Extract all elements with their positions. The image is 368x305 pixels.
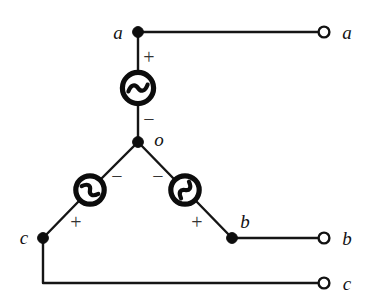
wire-c-line bbox=[43, 238, 324, 283]
terminal-label-b: b bbox=[342, 229, 352, 248]
polarity-plus-phase-a: + bbox=[143, 47, 154, 67]
node-dot-c bbox=[38, 233, 49, 244]
node-label-o: o bbox=[154, 130, 164, 149]
terminal-group bbox=[319, 27, 330, 289]
polarity-minus-phase-b: − bbox=[152, 166, 163, 186]
polarity-plus-phase-b: + bbox=[191, 212, 202, 232]
terminal-label-c: c bbox=[343, 274, 351, 293]
terminal-label-a: a bbox=[342, 23, 352, 42]
polarity-plus-phase-c: + bbox=[70, 212, 81, 232]
wire-group bbox=[43, 32, 324, 283]
node-label-a: a bbox=[113, 23, 123, 42]
source-phase-a[interactable] bbox=[122, 72, 153, 103]
polarity-minus-phase-c: − bbox=[111, 166, 122, 186]
circuit-canvas bbox=[0, 0, 368, 305]
node-dot-a bbox=[133, 27, 144, 38]
node-dot-b bbox=[227, 233, 238, 244]
terminal-c[interactable] bbox=[319, 278, 330, 289]
terminal-a[interactable] bbox=[319, 27, 330, 38]
node-label-c: c bbox=[20, 228, 28, 247]
circuit-diagram: a o c b a b c + − − + − + bbox=[0, 0, 368, 305]
node-label-b: b bbox=[240, 212, 250, 231]
polarity-minus-phase-a: − bbox=[143, 109, 154, 129]
terminal-b[interactable] bbox=[319, 233, 330, 244]
node-dot-o bbox=[133, 137, 144, 148]
